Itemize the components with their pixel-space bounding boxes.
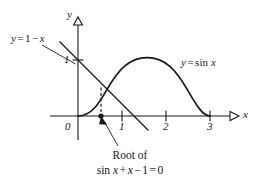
- line-label-x: x: [40, 32, 45, 44]
- line-equation-label: y=1−x: [11, 33, 45, 44]
- line-label-minus: −: [31, 32, 40, 44]
- sine-label-fn: sin: [195, 56, 208, 68]
- y-tick-label-1: 1: [64, 54, 70, 65]
- root-caption-line-1: Root of: [0, 150, 260, 162]
- x-tick-label-1: 1: [119, 121, 125, 132]
- line-label-eq: =: [16, 32, 25, 44]
- sine-label-eq: =: [186, 56, 195, 68]
- x-tick-label-2: 2: [163, 121, 169, 132]
- leader-line-linear-label: [42, 45, 76, 64]
- x-axis-label: x: [243, 109, 248, 120]
- figure-root-of-sinx-plus-x-minus-1: y x 0 1 2 3 1 y=1−x y=sinx Root of sinx+…: [0, 0, 260, 182]
- caption-minus: −: [133, 164, 143, 176]
- line-y-equals-one-minus-x: [60, 42, 149, 131]
- caption-equals: =: [148, 164, 158, 176]
- y-axis-arrowhead-icon: [74, 17, 83, 25]
- x-tick-label-3: 3: [207, 121, 213, 132]
- x-axis-arrowhead-icon: [230, 112, 239, 121]
- y-axis-label: y: [67, 9, 72, 20]
- caption-zero: 0: [158, 164, 164, 176]
- caption-plus: +: [118, 164, 128, 176]
- caption-fn: sin: [97, 164, 110, 176]
- sine-equation-label: y=sinx: [181, 57, 216, 68]
- root-caption-line-2: sinx+x−1=0: [0, 165, 260, 177]
- sine-label-x: x: [208, 56, 216, 68]
- caption-var-1: x: [110, 164, 118, 176]
- origin-tick-label: 0: [65, 121, 71, 132]
- line-label-one: 1: [25, 32, 31, 44]
